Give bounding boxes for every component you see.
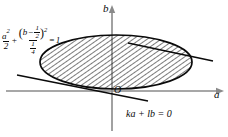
axis-vertical-arrow [109,5,115,13]
plus-sign: + [11,36,18,45]
term1-denominator: 2 [3,41,10,51]
equation-rhs: 1 [55,36,61,45]
term2-numerator: (b−12)2 [18,25,48,40]
term2-exponent: 2 [44,27,47,34]
denominator-frac-denominator: 4 [30,48,36,56]
equation-term-two: (b−12)2 1 4 [18,25,48,56]
figure-canvas: a2 2 + (b−12)2 1 4 = 1 b a O ka + lb = 0 [0,0,228,137]
line-equation-label: ka + lb = 0 [126,108,172,119]
math-figure [0,0,228,137]
denominator-frac-numerator: 1 [30,41,36,48]
term1-variable: a [2,31,7,41]
term2-denominator: 1 4 [29,40,37,56]
term1-exponent: 2 [7,27,10,34]
ellipse-equation: a2 2 + (b−12)2 1 4 = 1 [1,25,61,56]
minus-sign: − [27,28,34,37]
equals-sign: = [48,36,55,45]
denominator-fraction: 1 4 [30,41,36,56]
equation-term-one: a2 2 [1,30,11,51]
axis-label-a: a [214,88,220,100]
origin-label: O [114,84,121,95]
axis-label-b: b [103,2,109,14]
